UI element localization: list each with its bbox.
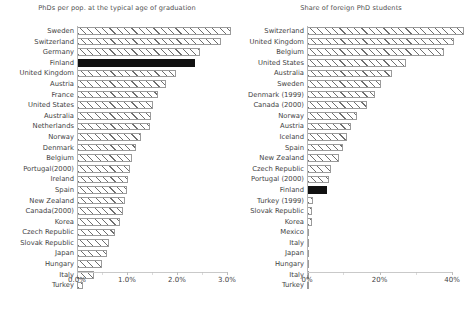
- bar-track: [307, 26, 468, 37]
- bar-row: Japan: [0, 248, 234, 259]
- bar-track: [77, 196, 234, 207]
- category-label: Austria: [234, 121, 307, 132]
- bar-track: [77, 47, 234, 58]
- bar-row: Sweden: [0, 26, 234, 37]
- bar-track: [77, 174, 234, 185]
- category-label: United Kingdom: [0, 68, 77, 79]
- axis-tick-label: 0.0%: [68, 276, 86, 284]
- bar-row: Korea: [0, 217, 234, 228]
- bar-track: [307, 153, 468, 164]
- category-label: Norway: [234, 111, 307, 122]
- bar-row: New Zealand: [234, 153, 468, 164]
- bar-track: [77, 217, 234, 228]
- bar: [307, 176, 329, 184]
- bar: [77, 239, 109, 247]
- bar-track: [307, 238, 468, 249]
- category-label: Mexico: [234, 227, 307, 238]
- bar-track: [307, 47, 468, 58]
- bar: [307, 101, 367, 109]
- bar-row: Austria: [234, 121, 468, 132]
- chart-panel-phds-per-pop: PhDs per pop. at the typical age of grad…: [0, 0, 234, 311]
- category-label: Denmark: [0, 143, 77, 154]
- bar-row: Austria: [0, 79, 234, 90]
- bar: [307, 70, 392, 78]
- category-label: Turkey: [0, 280, 77, 291]
- axis-minor-tick: [152, 272, 153, 275]
- bar-track: [307, 132, 468, 143]
- category-label: Turkey: [234, 280, 307, 291]
- bar-track: [307, 58, 468, 69]
- bar: [77, 229, 115, 237]
- bar-track: [307, 68, 468, 79]
- category-label: Norway: [0, 132, 77, 143]
- bar: [77, 250, 107, 258]
- bar-track: [307, 206, 468, 217]
- bar-track: [77, 206, 234, 217]
- bar: [77, 91, 158, 99]
- bar-row: Denmark: [0, 143, 234, 154]
- category-label: Canada (2000): [234, 100, 307, 111]
- bar-track: [307, 196, 468, 207]
- axis-tick: [380, 272, 381, 275]
- category-label: Ireland: [0, 174, 77, 185]
- category-label: Australia: [0, 111, 77, 122]
- bar: [77, 165, 130, 173]
- category-label: Japan: [0, 248, 77, 259]
- bar-row: Australia: [234, 68, 468, 79]
- category-label: Portugal (2000): [234, 174, 307, 185]
- bar: [77, 260, 102, 268]
- category-label: United Kingdom: [234, 37, 307, 48]
- bar-row: Slovak Republic: [0, 238, 234, 249]
- bar-track: [307, 227, 468, 238]
- bar-track: [77, 248, 234, 259]
- category-label: Hungary: [234, 259, 307, 270]
- bar: [77, 70, 176, 78]
- category-label: Belgium: [234, 47, 307, 58]
- bar-highlighted: [77, 59, 195, 67]
- bar-row: Switzerland: [234, 26, 468, 37]
- bar-row: Norway: [234, 111, 468, 122]
- bar: [307, 27, 464, 35]
- category-label: France: [0, 90, 77, 101]
- category-label: Japan: [234, 248, 307, 259]
- category-label: Slovak Republic: [234, 206, 307, 217]
- bar-track: [77, 121, 234, 132]
- category-label: Turkey (1999): [234, 196, 307, 207]
- bar: [77, 101, 153, 109]
- bar: [307, 59, 406, 67]
- category-label: Belgium: [0, 153, 77, 164]
- plot-area-right: SwitzerlandUnited KingdomBelgiumUnited S…: [234, 0, 468, 311]
- bar-row: Turkey (1999): [234, 196, 468, 207]
- bar-track: [77, 164, 234, 175]
- bar: [307, 144, 343, 152]
- bar-row: Finland: [0, 58, 234, 69]
- bar-track: [77, 143, 234, 154]
- bar: [307, 91, 375, 99]
- category-label: Canada(2000): [0, 206, 77, 217]
- bar-row: Germany: [0, 47, 234, 58]
- bar: [307, 154, 339, 162]
- bar-row: Netherlands: [0, 121, 234, 132]
- category-label: Netherlands: [0, 121, 77, 132]
- category-label: Finland: [0, 58, 77, 69]
- bar: [307, 80, 381, 88]
- bar-row: Czech Republic: [234, 164, 468, 175]
- bar: [77, 27, 231, 35]
- bar: [77, 133, 141, 141]
- bar-track: [307, 164, 468, 175]
- bar-row: Portugal (2000): [234, 174, 468, 185]
- bar-rows-right: SwitzerlandUnited KingdomBelgiumUnited S…: [234, 26, 468, 291]
- bar-track: [307, 185, 468, 196]
- bar-row: Korea: [234, 217, 468, 228]
- bar: [77, 80, 166, 88]
- axis-tick: [227, 272, 228, 275]
- bar-row: United States: [0, 100, 234, 111]
- category-label: Spain: [0, 185, 77, 196]
- bar-row: Belgium: [0, 153, 234, 164]
- bar-row: Czech Republic: [0, 227, 234, 238]
- axis-tick-label: 0%: [301, 276, 312, 284]
- bar-row: Slovak Republic: [234, 206, 468, 217]
- bar-track: [77, 58, 234, 69]
- bar-track: [77, 238, 234, 249]
- bar: [307, 133, 347, 141]
